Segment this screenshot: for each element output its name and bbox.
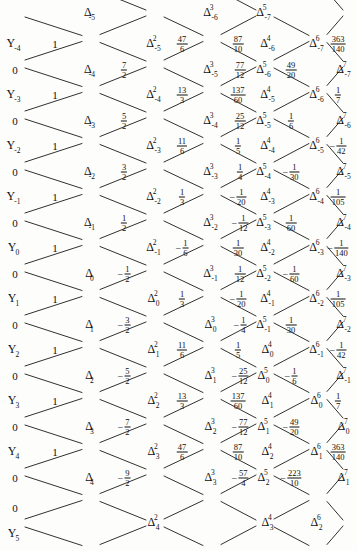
delta-index: -2 bbox=[269, 248, 275, 257]
y-label: Y0 bbox=[8, 240, 20, 256]
fraction: 52 bbox=[124, 367, 130, 386]
fraction: 1105 bbox=[331, 290, 346, 309]
cell-value: 476 bbox=[177, 443, 188, 462]
fraction-numerator: 1 bbox=[336, 137, 347, 146]
cell-value: −160 bbox=[282, 265, 299, 284]
cell-value: 130 bbox=[286, 316, 297, 335]
delta-order: 2 bbox=[154, 391, 158, 400]
fraction-denominator: 12 bbox=[238, 223, 249, 233]
cell-value: 13 bbox=[179, 290, 185, 309]
fraction-denominator: 2 bbox=[124, 478, 130, 488]
delta-order: 3 bbox=[210, 264, 214, 273]
delta-order: 3 bbox=[211, 315, 215, 324]
fraction-denominator: 2 bbox=[124, 376, 130, 386]
delta-node: Δ52 bbox=[257, 470, 272, 485]
fraction-denominator: 10 bbox=[287, 478, 302, 488]
delta-order: 5 bbox=[263, 315, 267, 324]
fraction: 72 bbox=[121, 61, 127, 80]
delta-node: Δ7-6 bbox=[336, 113, 354, 128]
fraction-numerator: 1 bbox=[237, 163, 243, 172]
delta-index: 2 bbox=[266, 478, 270, 487]
integer-value: 1 bbox=[52, 191, 58, 203]
delta-index: 3 bbox=[90, 427, 94, 436]
minus-sign: − bbox=[176, 243, 182, 254]
fraction-numerator: 11 bbox=[177, 341, 187, 350]
delta-node: Δ-3 bbox=[84, 114, 98, 129]
delta-index: 0 bbox=[270, 350, 274, 359]
fraction: 17 bbox=[335, 392, 341, 411]
fraction-numerator: 1 bbox=[233, 239, 244, 248]
fraction-denominator: 105 bbox=[331, 299, 346, 309]
delta-order: 6 bbox=[316, 187, 320, 196]
fraction-denominator: 20 bbox=[236, 197, 247, 207]
delta-node: Δ21 bbox=[147, 342, 162, 357]
fraction-denominator: 6 bbox=[177, 452, 188, 462]
fraction: 476 bbox=[177, 443, 188, 462]
delta-order: 4 bbox=[267, 289, 271, 298]
minus-sign: − bbox=[231, 422, 237, 433]
fraction-numerator: 49 bbox=[289, 418, 300, 427]
fraction-denominator: 2 bbox=[121, 70, 127, 80]
delta-index: -6 bbox=[318, 95, 324, 104]
delta-index: -4 bbox=[89, 70, 95, 79]
delta-index: 1 bbox=[346, 478, 350, 487]
fraction-numerator: 1 bbox=[235, 341, 241, 350]
delta-node: Δ5-6 bbox=[256, 62, 274, 77]
y-label-index: -3 bbox=[14, 95, 20, 104]
fraction-numerator: 77 bbox=[235, 61, 246, 70]
delta-order: 3 bbox=[210, 3, 214, 12]
fraction: 14 bbox=[240, 316, 246, 335]
cell-value: −16 bbox=[176, 239, 189, 258]
minus-sign: − bbox=[329, 345, 335, 356]
cell-value: 15 bbox=[235, 137, 241, 156]
y-label-index: 0 bbox=[15, 248, 19, 257]
fraction-numerator: 1 bbox=[336, 341, 347, 350]
delta-node: Δ24 bbox=[147, 515, 162, 530]
delta-node: Δ2-5 bbox=[146, 36, 164, 51]
delta-node: Δ3-6 bbox=[203, 5, 221, 20]
delta-order: 7 bbox=[343, 315, 347, 324]
cell-value: −4920 bbox=[282, 418, 299, 437]
delta-index: -3 bbox=[265, 223, 271, 232]
cell-value: −2512 bbox=[231, 367, 248, 386]
fraction-numerator: 9 bbox=[124, 469, 130, 478]
fraction: 8710 bbox=[233, 443, 244, 462]
delta-index: -7 bbox=[265, 13, 271, 22]
y-label-index: 3 bbox=[15, 401, 19, 410]
fraction-denominator: 4 bbox=[237, 172, 243, 182]
delta-index: -5 bbox=[89, 13, 95, 22]
delta-order: 7 bbox=[343, 162, 347, 171]
fraction: 8710 bbox=[233, 35, 244, 54]
delta-node: Δ7-7 bbox=[336, 62, 354, 77]
delta-index: -4 bbox=[318, 197, 324, 206]
cell-value: 7712 bbox=[235, 61, 246, 80]
fraction-numerator: 5 bbox=[121, 112, 127, 121]
delta-node: Δ-2 bbox=[84, 165, 98, 180]
fraction: 17 bbox=[335, 86, 341, 105]
delta-order: 2 bbox=[154, 340, 158, 349]
delta-order: 6 bbox=[316, 238, 320, 247]
fraction: 15 bbox=[235, 341, 241, 360]
fraction-numerator: 1 bbox=[238, 214, 249, 223]
fraction: 1140 bbox=[334, 239, 349, 258]
delta-index: -1 bbox=[318, 350, 324, 359]
minus-sign: − bbox=[231, 473, 237, 484]
fraction-denominator: 105 bbox=[331, 197, 346, 207]
delta-node: Δ33 bbox=[204, 470, 219, 485]
cell-value: −130 bbox=[282, 163, 299, 182]
fraction-denominator: 20 bbox=[286, 70, 297, 80]
fraction: 476 bbox=[177, 35, 188, 54]
delta-order: 7 bbox=[344, 468, 348, 477]
delta-order: 3 bbox=[210, 111, 214, 120]
zero-value: 0 bbox=[12, 472, 18, 484]
delta-order: 5 bbox=[263, 60, 267, 69]
fraction: 116 bbox=[177, 137, 187, 156]
delta-index: -5 bbox=[265, 121, 271, 130]
delta-index: -5 bbox=[318, 146, 324, 155]
delta-node: Δ4-5 bbox=[260, 87, 278, 102]
fraction-denominator: 30 bbox=[289, 172, 300, 182]
cell-value: 8710 bbox=[233, 35, 244, 54]
cell-value: 13760 bbox=[231, 86, 246, 105]
minus-sign: − bbox=[118, 422, 124, 433]
delta-order: 7 bbox=[343, 60, 347, 69]
